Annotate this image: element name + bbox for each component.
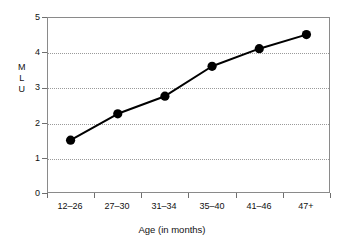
x-axis-title: Age (in months) xyxy=(0,224,344,235)
y-tick-label-0: 0 xyxy=(26,189,40,198)
x-tick-mark-5 xyxy=(283,193,284,198)
x-tick-mark-6 xyxy=(330,193,331,198)
y-tick-label-3: 3 xyxy=(26,83,40,92)
x-tick-label-31-34: 31–34 xyxy=(151,201,176,211)
x-tick-label-12-26: 12–26 xyxy=(57,201,82,211)
y-axis-title-letter-1: M xyxy=(14,62,30,73)
y-tick-label-1: 1 xyxy=(26,154,40,163)
gridline-2 xyxy=(48,124,329,125)
chart-figure: M L U 5 4 3 2 1 0 12–26 27–30 31–34 35–4… xyxy=(0,0,344,250)
x-tick-mark-2 xyxy=(141,193,142,198)
y-tick-label-5: 5 xyxy=(26,13,40,22)
x-tick-mark-3 xyxy=(188,193,189,198)
x-tick-label-35-40: 35–40 xyxy=(199,201,224,211)
x-tick-label-27-30: 27–30 xyxy=(104,201,129,211)
x-tick-label-41-46: 41–46 xyxy=(246,201,271,211)
x-tick-mark-4 xyxy=(236,193,237,198)
gridline-4 xyxy=(48,53,329,54)
y-tick-label-4: 4 xyxy=(26,48,40,57)
gridline-3 xyxy=(48,88,329,89)
x-tick-label-47-plus: 47+ xyxy=(298,201,313,211)
x-tick-mark-1 xyxy=(94,193,95,198)
y-tick-label-2: 2 xyxy=(26,119,40,128)
plot-area xyxy=(47,17,330,193)
gridline-1 xyxy=(48,159,329,160)
x-tick-mark-0 xyxy=(47,193,48,198)
